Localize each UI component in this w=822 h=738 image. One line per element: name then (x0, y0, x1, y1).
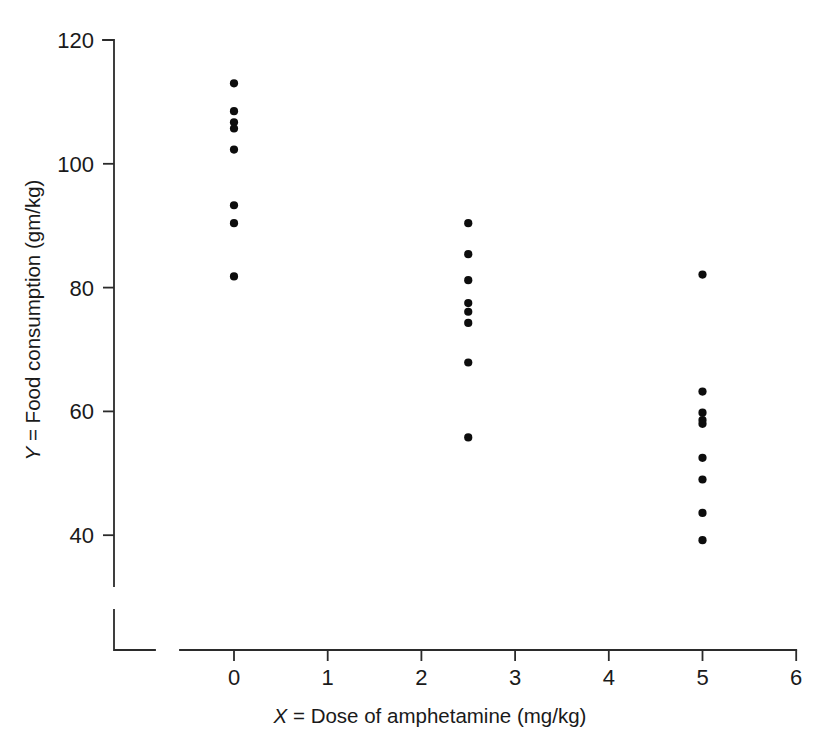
x-axis-tick-label: 6 (790, 665, 802, 690)
data-point (698, 387, 706, 395)
x-axis-tick-label: 2 (415, 665, 427, 690)
data-point (698, 536, 706, 544)
plot-canvas: 4060801001200123456X = Dose of amphetami… (0, 0, 822, 738)
y-axis-line (103, 40, 114, 586)
x-axis-tick-label: 3 (509, 665, 521, 690)
y-axis-tick-label: 40 (70, 523, 94, 548)
x-axis-tick-label: 1 (322, 665, 334, 690)
data-point (464, 319, 472, 327)
x-axis-title: X = Dose of amphetamine (mg/kg) (273, 704, 587, 727)
data-point (698, 454, 706, 462)
y-axis-tick-label: 60 (70, 399, 94, 424)
y-axis-title-text: = Food consumption (gm/kg) (21, 180, 44, 447)
data-point (230, 124, 238, 132)
y-axis-title: Y = Food consumption (gm/kg) (21, 180, 44, 461)
data-point (464, 308, 472, 316)
data-point (698, 271, 706, 279)
data-point (230, 107, 238, 115)
x-axis-tick-label: 4 (603, 665, 615, 690)
data-point (464, 299, 472, 307)
data-point (230, 145, 238, 153)
x-axis-tick-label: 0 (228, 665, 240, 690)
data-point (698, 409, 706, 417)
x-axis-tick-label: 5 (696, 665, 708, 690)
data-point (230, 219, 238, 227)
scatter-plot-figure: 4060801001200123456X = Dose of amphetami… (0, 0, 822, 738)
data-point (464, 358, 472, 366)
data-point (698, 475, 706, 483)
data-point (230, 79, 238, 87)
x-axis-title-text: = Dose of amphetamine (mg/kg) (287, 704, 586, 727)
data-point (230, 272, 238, 280)
data-point (464, 433, 472, 441)
y-axis-tick-label: 100 (57, 152, 94, 177)
data-point (464, 276, 472, 284)
y-axis-break-stub (114, 610, 155, 650)
data-point (698, 509, 706, 517)
data-point (698, 420, 706, 428)
data-point (464, 250, 472, 258)
y-axis-tick-label: 80 (70, 276, 94, 301)
x-axis-title-variable: X (273, 704, 289, 727)
data-point (464, 219, 472, 227)
y-axis-tick-label: 120 (57, 28, 94, 53)
data-point (230, 201, 238, 209)
